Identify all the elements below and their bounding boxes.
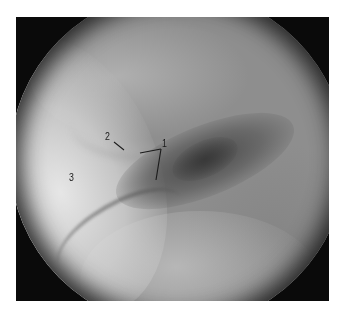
dark-lumen-region bbox=[104, 93, 306, 229]
upper-tissue-fold bbox=[70, 86, 230, 162]
lower-tissue-fold-edge bbox=[43, 174, 197, 291]
annotation-label-3: 3 bbox=[69, 172, 74, 183]
bright-left-mucosa-region bbox=[16, 17, 204, 301]
annotation-label-2: 2 bbox=[105, 131, 110, 142]
endoscope-field-of-view bbox=[16, 17, 329, 301]
endoscopic-image-frame bbox=[16, 17, 329, 301]
right-mucosa-region bbox=[180, 141, 329, 301]
lower-mucosa-region bbox=[80, 211, 320, 301]
upper-mucosa-region bbox=[30, 17, 250, 141]
lumen-core bbox=[166, 128, 245, 190]
annotation-label-1: 1 bbox=[162, 138, 167, 149]
